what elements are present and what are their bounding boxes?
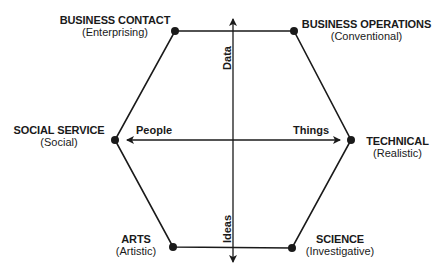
node-subtitle: (Investigative) [300, 245, 380, 257]
node-subtitle: (Artistic) [106, 245, 166, 257]
label-social-service: SOCIAL SERVICE (Social) [8, 124, 110, 148]
node-subtitle: (Social) [8, 136, 110, 148]
node-title: ARTS [106, 233, 166, 245]
node-subtitle: (Enterprising) [55, 26, 175, 38]
node-subtitle: (Conventional) [299, 30, 434, 42]
axis-label-things: Things [293, 124, 329, 136]
axis-label-data: Data [221, 43, 233, 73]
node-title: BUSINESS CONTACT [55, 14, 175, 26]
axis-label-people: People [136, 124, 172, 136]
label-science: SCIENCE (Investigative) [300, 233, 380, 257]
label-technical: TECHNICAL (Realistic) [355, 135, 440, 159]
node-title: SOCIAL SERVICE [8, 124, 110, 136]
dot-business-operations [290, 27, 298, 35]
dot-social-service [111, 136, 119, 144]
node-title: TECHNICAL [355, 135, 440, 147]
label-business-contact: BUSINESS CONTACT (Enterprising) [55, 14, 175, 38]
dot-technical [347, 136, 355, 144]
node-title: SCIENCE [300, 233, 380, 245]
label-arts: ARTS (Artistic) [106, 233, 166, 257]
node-subtitle: (Realistic) [355, 147, 440, 159]
axis-label-ideas: Ideas [221, 212, 233, 246]
dot-arts [169, 243, 177, 251]
label-business-operations: BUSINESS OPERATIONS (Conventional) [299, 18, 434, 42]
node-title: BUSINESS OPERATIONS [299, 18, 434, 30]
dot-science [288, 244, 296, 252]
